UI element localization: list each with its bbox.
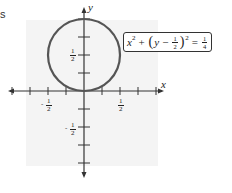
x-axis-label: x xyxy=(161,78,166,90)
y-axis-down-arrow-icon xyxy=(82,172,87,178)
x-axis-left-arrow-icon xyxy=(8,89,14,94)
x-tick-label-neg-half: - 1 2 xyxy=(46,98,52,113)
equation-box: x 2 + ( y − 1 2 ) 2 = 1 4 xyxy=(123,32,212,52)
y-axis-up-arrow-icon xyxy=(82,7,87,13)
equation-half-fraction: 1 2 xyxy=(172,35,177,50)
y-tick-label-neg-half: - 1 2 xyxy=(70,122,76,137)
coordinate-plane xyxy=(0,0,232,193)
equation-quarter-fraction: 1 4 xyxy=(202,35,207,50)
y-axis-label: y xyxy=(88,1,93,13)
y-tick-label-half: 1 2 xyxy=(70,48,76,63)
x-tick-label-half: 1 2 xyxy=(118,98,124,113)
